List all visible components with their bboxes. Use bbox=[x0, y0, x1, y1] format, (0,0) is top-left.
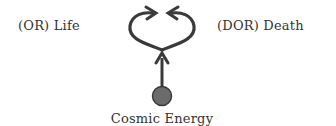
cosmic-energy-label: Cosmic Energy bbox=[0, 111, 324, 126]
cosmic-energy-node bbox=[153, 87, 172, 106]
or-life-label: (OR) Life bbox=[18, 18, 80, 33]
dor-death-label: (DOR) Death bbox=[217, 18, 304, 33]
